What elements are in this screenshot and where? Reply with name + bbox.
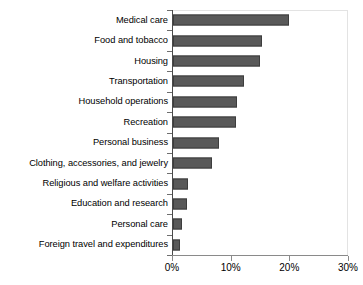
bar-track: [173, 76, 244, 87]
category-label: Personal care: [0, 219, 168, 230]
bar-row: Personal care: [0, 214, 363, 234]
bar-row: Foreign travel and expenditures: [0, 235, 363, 255]
y-axis-tick: [167, 71, 172, 72]
category-label: Housing: [0, 56, 168, 67]
y-axis-tick: [167, 133, 172, 134]
bar-row: Education and research: [0, 194, 363, 214]
bar: [173, 96, 237, 107]
bar-track: [173, 219, 182, 230]
bar: [173, 137, 219, 148]
y-axis-tick: [167, 30, 172, 31]
bar-row: Clothing, accessories, and jewelry: [0, 153, 363, 173]
bar-track: [173, 117, 236, 128]
bar: [173, 219, 182, 230]
bar: [173, 178, 188, 189]
x-axis-tick: [231, 256, 232, 261]
x-axis-tick: [172, 256, 173, 261]
bar-track: [173, 56, 260, 67]
x-axis-line: [172, 255, 348, 256]
bar-track: [173, 198, 187, 209]
category-label: Transportation: [0, 76, 168, 87]
x-axis-tick-label: 0%: [152, 262, 192, 274]
y-axis-tick: [167, 51, 172, 52]
y-axis-tick: [167, 92, 172, 93]
bar: [173, 35, 262, 46]
y-axis-tick: [167, 153, 172, 154]
bar-rows: Medical careFood and tobaccoHousingTrans…: [0, 10, 363, 255]
bar: [173, 15, 289, 26]
x-axis-tick: [289, 256, 290, 261]
bar-row: Transportation: [0, 71, 363, 91]
x-axis-tick-label: 20%: [269, 262, 309, 274]
y-axis-tick: [167, 10, 172, 11]
bar-row: Household operations: [0, 92, 363, 112]
category-label: Household operations: [0, 96, 168, 107]
bar-track: [173, 239, 180, 250]
bar: [173, 117, 236, 128]
bar-row: Personal business: [0, 133, 363, 153]
bar-track: [173, 96, 237, 107]
y-axis-tick: [167, 214, 172, 215]
bar-track: [173, 178, 188, 189]
category-label: Medical care: [0, 15, 168, 26]
bar-row: Medical care: [0, 10, 363, 30]
bar: [173, 158, 212, 169]
x-axis-tick-label: 30%: [328, 262, 363, 274]
category-label: Recreation: [0, 117, 168, 128]
bar-row: Recreation: [0, 112, 363, 132]
bar-row: Food and tobacco: [0, 30, 363, 50]
category-label: Education and research: [0, 198, 168, 209]
category-label: Food and tobacco: [0, 35, 168, 46]
bar-row: Religious and welfare activities: [0, 173, 363, 193]
category-label: Religious and welfare activities: [0, 178, 168, 189]
category-label: Foreign travel and expenditures: [0, 239, 168, 250]
y-axis-tick: [167, 173, 172, 174]
category-label: Personal business: [0, 137, 168, 148]
bar-track: [173, 15, 289, 26]
y-axis-tick: [167, 235, 172, 236]
bar-track: [173, 137, 219, 148]
bar-track: [173, 35, 262, 46]
bar-chart: Medical careFood and tobaccoHousingTrans…: [0, 0, 363, 285]
bar-row: Housing: [0, 51, 363, 71]
x-axis-tick-label: 10%: [211, 262, 251, 274]
bar: [173, 198, 187, 209]
y-axis-tick: [167, 194, 172, 195]
y-axis-tick: [167, 112, 172, 113]
bar: [173, 76, 244, 87]
bar: [173, 56, 260, 67]
category-label: Clothing, accessories, and jewelry: [0, 158, 168, 169]
bar-track: [173, 158, 212, 169]
x-axis-tick: [348, 256, 349, 261]
bar: [173, 239, 180, 250]
